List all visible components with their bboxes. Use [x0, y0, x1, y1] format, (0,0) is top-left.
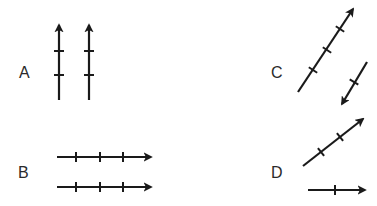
panel-d-arrows — [303, 119, 365, 195]
vector-arrow — [298, 9, 353, 92]
panel-label-b: B — [18, 165, 29, 181]
panel-b-arrows — [57, 152, 151, 192]
panel-a-arrows — [54, 25, 94, 100]
panel-label-d: D — [271, 165, 283, 181]
panel-c-arrows — [298, 9, 367, 104]
panel-label-c: C — [271, 65, 283, 81]
vector-arrow — [303, 119, 363, 166]
vector-arrows-diagram — [0, 0, 377, 206]
panel-label-a: A — [19, 65, 30, 81]
